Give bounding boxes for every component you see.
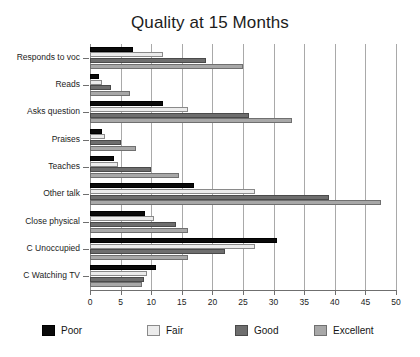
category-axis-labels: Responds to vocReadsAsks questionPraises…: [0, 44, 80, 290]
x-axis-tick: [212, 290, 213, 295]
x-axis-tick: [396, 290, 397, 295]
bar: [90, 238, 277, 243]
category-label: Asks question: [27, 106, 80, 116]
x-axis-tick: [335, 290, 336, 295]
legend-swatch-icon: [147, 325, 160, 336]
bar: [90, 228, 188, 233]
bar: [90, 134, 105, 139]
category-label: Reads: [55, 79, 80, 89]
bar: [90, 64, 243, 69]
plot-area: [90, 44, 396, 290]
bar: [90, 255, 188, 260]
chart-container: Quality at 15 Months Responds to vocRead…: [0, 0, 420, 357]
bar: [90, 282, 142, 287]
x-axis-tick-label: 25: [231, 297, 255, 307]
bar: [90, 85, 111, 90]
x-axis-tick: [121, 290, 122, 295]
bar-group: [90, 265, 396, 287]
category-tick: [83, 85, 89, 86]
x-axis-tick-label: 10: [139, 297, 163, 307]
bar: [90, 101, 163, 106]
legend-entry-fair[interactable]: Fair: [147, 325, 183, 336]
category-label: Other talk: [43, 188, 80, 198]
category-tick: [83, 222, 89, 223]
bar-group: [90, 101, 396, 123]
x-axis-tick-label: 5: [109, 297, 133, 307]
legend-label: Excellent: [333, 325, 374, 336]
bar: [90, 173, 179, 178]
x-axis-tick: [243, 290, 244, 295]
x-axis-tick-label: 15: [170, 297, 194, 307]
x-axis-tick-label: 0: [78, 297, 102, 307]
bar: [90, 265, 156, 270]
bar-group: [90, 129, 396, 151]
chart-legend: PoorFairGoodExcellent: [42, 325, 382, 343]
category-label: Praises: [52, 134, 80, 144]
legend-swatch-icon: [314, 325, 327, 336]
x-axis-tick: [182, 290, 183, 295]
bar: [90, 74, 99, 79]
x-axis-tick-label: 30: [262, 297, 286, 307]
category-tick: [83, 140, 89, 141]
category-label: C Unoccupied: [27, 243, 80, 253]
legend-swatch-icon: [235, 325, 248, 336]
legend-entry-poor[interactable]: Poor: [42, 325, 82, 336]
bar: [90, 91, 130, 96]
bar: [90, 129, 102, 134]
bar: [90, 80, 102, 85]
bar: [90, 107, 188, 112]
x-axis-tick-label: 50: [384, 297, 408, 307]
category-tick: [83, 58, 89, 59]
legend-label: Poor: [61, 325, 82, 336]
x-axis-tick: [151, 290, 152, 295]
legend-label: Fair: [166, 325, 183, 336]
bar-group: [90, 74, 396, 96]
category-tick: [83, 167, 89, 168]
x-axis-tick: [90, 290, 91, 295]
bar: [90, 200, 381, 205]
category-tick: [83, 249, 89, 250]
bar: [90, 52, 163, 57]
bar: [90, 183, 194, 188]
bar: [90, 156, 114, 161]
bar: [90, 140, 121, 145]
legend-label: Good: [254, 325, 278, 336]
legend-entry-excellent[interactable]: Excellent: [314, 325, 374, 336]
category-tick: [83, 276, 89, 277]
x-axis-tick-label: 45: [353, 297, 377, 307]
x-axis-tick: [365, 290, 366, 295]
category-label: Responds to voc: [17, 52, 80, 62]
legend-entry-good[interactable]: Good: [235, 325, 278, 336]
bar: [90, 162, 118, 167]
bar: [90, 249, 225, 254]
category-label: Teaches: [48, 161, 80, 171]
bar-group: [90, 156, 396, 178]
bar: [90, 118, 292, 123]
bar: [90, 222, 176, 227]
bar: [90, 244, 255, 249]
x-axis-tick-label: 20: [200, 297, 224, 307]
bar: [90, 146, 136, 151]
category-label: Close physical: [25, 216, 80, 226]
bar: [90, 113, 249, 118]
category-label: C Watching TV: [23, 270, 80, 280]
bar: [90, 271, 147, 276]
bar: [90, 211, 145, 216]
legend-swatch-icon: [42, 325, 55, 336]
category-tick: [83, 112, 89, 113]
x-axis-tick-label: 35: [292, 297, 316, 307]
bar: [90, 167, 151, 172]
bar: [90, 216, 154, 221]
bar-group: [90, 211, 396, 233]
bar: [90, 277, 144, 282]
bar: [90, 58, 206, 63]
chart-title: Quality at 15 Months: [0, 13, 420, 33]
bar: [90, 195, 329, 200]
bar-group: [90, 183, 396, 205]
bar: [90, 47, 133, 52]
x-axis-tick: [274, 290, 275, 295]
x-axis-tick: [304, 290, 305, 295]
gridline: [396, 44, 397, 290]
bar-group: [90, 238, 396, 260]
x-axis-tick-label: 40: [323, 297, 347, 307]
